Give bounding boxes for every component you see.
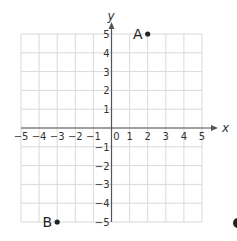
x-tick-label: 5 bbox=[199, 131, 205, 142]
x-tick-label: 0 bbox=[113, 131, 119, 142]
x-axis-arrow-icon bbox=[211, 125, 218, 131]
x-tick-label: 1 bbox=[126, 131, 132, 142]
y-tick-label: 4 bbox=[103, 48, 109, 59]
x-axis-label: x bbox=[221, 121, 230, 135]
y-tick-label: −5 bbox=[95, 217, 110, 228]
x-tick-label: 2 bbox=[145, 131, 151, 142]
y-tick-label: 3 bbox=[103, 67, 109, 78]
y-tick-label: −4 bbox=[95, 198, 110, 209]
y-tick-label: 2 bbox=[103, 85, 109, 96]
y-tick-label: 5 bbox=[103, 29, 109, 40]
y-tick-label: −3 bbox=[95, 179, 110, 190]
point-b bbox=[55, 219, 60, 224]
y-axis-arrow-icon bbox=[109, 22, 115, 29]
x-tick-label: 4 bbox=[181, 131, 187, 142]
point-label-a: A bbox=[133, 26, 143, 42]
x-tick-label: −3 bbox=[50, 131, 65, 142]
x-tick-label: 3 bbox=[163, 131, 169, 142]
x-tick-label: −1 bbox=[86, 131, 101, 142]
partial-dot-edge bbox=[233, 218, 237, 228]
y-tick-label: −2 bbox=[95, 161, 110, 172]
y-axis-label: y bbox=[107, 9, 116, 23]
coordinate-grid: xy −5−4−3−2−101234554321−1−2−3−4−5 AB bbox=[0, 0, 237, 241]
x-tick-label: −5 bbox=[14, 131, 29, 142]
x-tick-label: −2 bbox=[68, 131, 83, 142]
y-tick-label: −1 bbox=[95, 142, 110, 153]
x-tick-label: −4 bbox=[32, 131, 47, 142]
axes: xy bbox=[21, 9, 230, 222]
point-a bbox=[145, 31, 150, 36]
point-label-b: B bbox=[43, 214, 53, 230]
y-tick-label: 1 bbox=[103, 104, 109, 115]
